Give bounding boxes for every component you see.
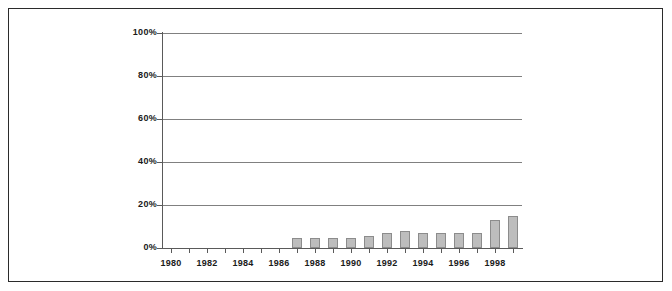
gridline — [162, 119, 522, 120]
y-axis-tick-label: 20% — [113, 200, 157, 209]
bar — [382, 233, 392, 248]
gridline — [162, 76, 522, 77]
y-axis-tick-mark — [157, 205, 162, 206]
x-axis-tick-mark — [387, 249, 388, 253]
y-axis-tick-label: 0% — [113, 243, 157, 252]
y-axis-line — [162, 32, 163, 249]
y-axis-tick-mark — [157, 76, 162, 77]
bar — [436, 233, 446, 248]
y-axis-tick-label: 60% — [113, 114, 157, 123]
y-axis-labels: 0%20%40%60%80%100% — [109, 9, 157, 283]
x-axis-tick-mark — [351, 249, 352, 253]
gridline — [162, 33, 522, 34]
bar — [400, 231, 410, 248]
bar — [364, 236, 374, 248]
x-axis-tick-mark — [333, 249, 334, 253]
y-axis-tick-label: 100% — [113, 28, 157, 37]
x-axis-tick-mark — [225, 249, 226, 253]
x-axis-tick-mark — [405, 249, 406, 253]
x-axis-tick-mark — [315, 249, 316, 253]
bar — [454, 233, 464, 248]
x-axis-tick-mark — [369, 249, 370, 253]
bar — [472, 233, 482, 248]
x-axis-tick-mark — [513, 249, 514, 253]
gridline — [162, 205, 522, 206]
x-axis-tick-mark — [297, 249, 298, 253]
bar — [310, 238, 320, 248]
figure-frame: 0%20%40%60%80%100% 198019821984198619881… — [8, 8, 663, 282]
y-axis-tick-mark — [157, 33, 162, 34]
bar — [292, 238, 302, 248]
y-axis-tick-label: 80% — [113, 71, 157, 80]
x-axis-line — [162, 248, 523, 249]
x-axis-tick-mark — [189, 249, 190, 253]
x-axis-tick-mark — [171, 249, 172, 253]
x-axis-tick-mark — [441, 249, 442, 253]
x-axis-tick-mark — [495, 249, 496, 253]
x-axis-tick-mark — [243, 249, 244, 253]
x-axis-tick-mark — [279, 249, 280, 253]
y-axis-tick-mark — [157, 162, 162, 163]
x-axis-tick-label: 1998 — [473, 258, 517, 268]
x-axis-tick-mark — [207, 249, 208, 253]
y-axis-tick-label: 40% — [113, 157, 157, 166]
x-axis-tick-mark — [261, 249, 262, 253]
y-axis-tick-mark — [157, 248, 162, 249]
y-axis-tick-mark — [157, 119, 162, 120]
x-axis-tick-mark — [459, 249, 460, 253]
bar-chart: 0%20%40%60%80%100% 198019821984198619881… — [9, 9, 664, 283]
bar — [418, 233, 428, 248]
bar — [346, 238, 356, 248]
bar — [490, 220, 500, 248]
bar — [508, 216, 518, 248]
bar — [328, 238, 338, 248]
x-axis-tick-mark — [477, 249, 478, 253]
x-axis-tick-mark — [423, 249, 424, 253]
gridline — [162, 162, 522, 163]
